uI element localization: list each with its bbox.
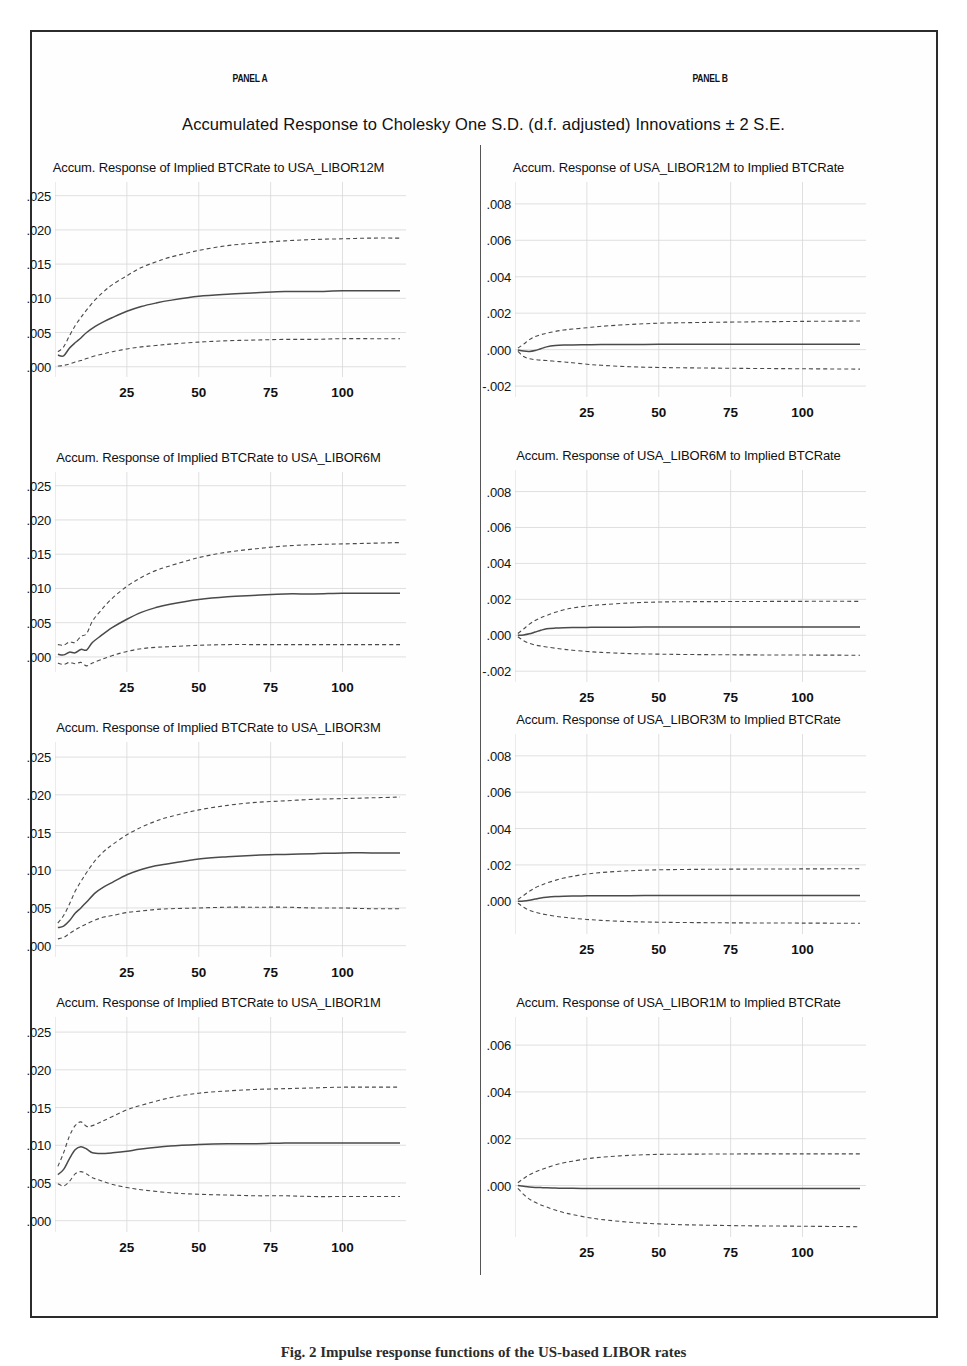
- x-axis-labels: 255075100: [3, 680, 440, 700]
- plot-area: [55, 742, 408, 959]
- series-lower_2se: [518, 637, 860, 656]
- x-tick-label: 25: [119, 385, 134, 400]
- y-axis-labels: -.002.000.002.004.006.008: [463, 182, 515, 397]
- x-tick-label: 25: [579, 942, 594, 957]
- y-tick-label: .006: [486, 233, 511, 248]
- y-tick-label: .005: [26, 900, 51, 915]
- x-tick-label: 50: [191, 385, 206, 400]
- y-tick-label: .025: [26, 1025, 51, 1040]
- series-response: [518, 895, 860, 901]
- series-upper_2se: [518, 1154, 860, 1183]
- x-tick-label: 75: [263, 680, 278, 695]
- x-tick-label: 50: [191, 965, 206, 980]
- x-tick-label: 75: [723, 405, 738, 420]
- y-tick-label: .008: [486, 484, 511, 499]
- series-upper_2se: [58, 1087, 400, 1166]
- x-tick-label: 100: [331, 385, 354, 400]
- x-axis-labels: 255075100: [3, 1240, 440, 1260]
- x-tick-label: 25: [119, 965, 134, 980]
- y-tick-label: .020: [26, 222, 51, 237]
- series-lower_2se: [58, 645, 400, 666]
- x-tick-label: 100: [331, 680, 354, 695]
- x-axis-labels: 255075100: [463, 1245, 900, 1265]
- y-axis-labels: .000.002.004.006: [463, 1017, 515, 1237]
- series-lower_2se: [58, 339, 400, 366]
- y-tick-label: .002: [486, 592, 511, 607]
- x-tick-label: 25: [579, 690, 594, 705]
- chart-title: Accum. Response of Implied BTCRate to US…: [3, 720, 434, 735]
- x-tick-label: 100: [791, 1245, 814, 1260]
- x-tick-label: 25: [579, 1245, 594, 1260]
- x-tick-label: 100: [791, 405, 814, 420]
- y-tick-label: .015: [26, 1100, 51, 1115]
- y-tick-label: .010: [26, 291, 51, 306]
- y-tick-label: .000: [486, 1178, 511, 1193]
- y-tick-label: -.002: [482, 379, 511, 394]
- chart-title: Accum. Response of USA_LIBOR12M to Impli…: [463, 160, 894, 175]
- y-tick-label: .005: [26, 1175, 51, 1190]
- x-tick-label: 100: [331, 1240, 354, 1255]
- series-response: [58, 1143, 400, 1175]
- y-tick-label: .004: [486, 556, 511, 571]
- panel-a-label: PANEL A: [203, 72, 297, 84]
- y-tick-label: .008: [486, 748, 511, 763]
- y-axis-labels: .000.002.004.006.008: [463, 734, 515, 934]
- plot-area: [515, 1017, 868, 1239]
- y-tick-label: .002: [486, 1131, 511, 1146]
- y-tick-label: .000: [26, 649, 51, 664]
- y-tick-label: .004: [486, 1084, 511, 1099]
- chart-title: Accum. Response of Implied BTCRate to US…: [3, 160, 434, 175]
- x-tick-label: 75: [263, 1240, 278, 1255]
- y-tick-label: .000: [486, 342, 511, 357]
- x-tick-label: 100: [331, 965, 354, 980]
- x-tick-label: 50: [651, 942, 666, 957]
- x-axis-labels: 255075100: [463, 942, 900, 962]
- plot-area: [515, 470, 868, 684]
- x-tick-label: 25: [579, 405, 594, 420]
- x-axis-labels: 255075100: [3, 385, 440, 405]
- x-tick-label: 50: [651, 1245, 666, 1260]
- y-tick-label: .006: [486, 1038, 511, 1053]
- series-lower_2se: [518, 351, 860, 369]
- x-tick-label: 75: [263, 385, 278, 400]
- y-tick-label: .004: [486, 269, 511, 284]
- y-tick-label: .000: [486, 894, 511, 909]
- panel-b-label: PANEL B: [663, 72, 757, 84]
- y-tick-label: .005: [26, 615, 51, 630]
- y-tick-label: .020: [26, 787, 51, 802]
- y-tick-label: .004: [486, 821, 511, 836]
- y-axis-labels: .000.005.010.015.020.025: [3, 1017, 55, 1232]
- plot-wrap: [55, 182, 408, 379]
- y-tick-label: .000: [26, 938, 51, 953]
- chart-title: Accum. Response of USA_LIBOR6M to Implie…: [463, 448, 894, 463]
- plot-area: [55, 1017, 408, 1234]
- chart-title: Accum. Response of Implied BTCRate to US…: [3, 995, 434, 1010]
- x-tick-label: 50: [651, 405, 666, 420]
- x-axis-labels: 255075100: [463, 690, 900, 710]
- y-tick-label: .006: [486, 520, 511, 535]
- chart-title: Accum. Response of USA_LIBOR3M to Implie…: [463, 712, 894, 727]
- y-tick-label: .020: [26, 1062, 51, 1077]
- chart-title: Accum. Response of Implied BTCRate to US…: [3, 450, 434, 465]
- y-tick-label: .015: [26, 825, 51, 840]
- y-tick-label: .000: [26, 1213, 51, 1228]
- figure-caption: Fig. 2 Impulse response functions of the…: [0, 1344, 967, 1364]
- series-response: [58, 593, 400, 655]
- x-axis-labels: 255075100: [3, 965, 440, 985]
- y-tick-label: .000: [486, 628, 511, 643]
- series-response: [518, 344, 860, 351]
- series-lower_2se: [518, 903, 860, 923]
- y-tick-label: .010: [26, 863, 51, 878]
- y-tick-label: .025: [26, 478, 51, 493]
- y-tick-label: .006: [486, 785, 511, 800]
- x-tick-label: 75: [723, 1245, 738, 1260]
- x-tick-label: 50: [191, 680, 206, 695]
- x-tick-label: 50: [651, 690, 666, 705]
- plot-wrap: [55, 1017, 408, 1234]
- figure-title: Accumulated Response to Cholesky One S.D…: [0, 115, 967, 134]
- y-axis-labels: .000.005.010.015.020.025: [3, 182, 55, 377]
- y-tick-label: .000: [26, 359, 51, 374]
- plot-wrap: [515, 1017, 868, 1239]
- series-lower_2se: [58, 907, 400, 939]
- y-tick-label: .015: [26, 547, 51, 562]
